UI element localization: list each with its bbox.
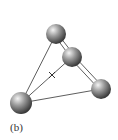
bond-bottomleft-right	[21, 89, 101, 103]
bond-top-bottomleft	[21, 34, 56, 103]
atom-right	[91, 79, 111, 99]
atom-top	[46, 24, 66, 44]
atom-bottom-left	[10, 92, 32, 114]
center-cross-icon	[49, 72, 55, 78]
atom-middle	[62, 47, 82, 67]
tetrahedral-molecule-diagram	[0, 0, 118, 140]
figure-label: (b)	[10, 121, 23, 133]
